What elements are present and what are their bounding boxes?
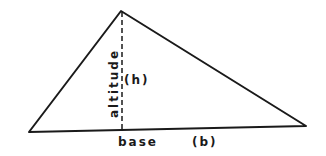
triangle-diagram: altitude (h) base (b) <box>0 0 326 156</box>
base-variable-label: (b) <box>192 135 218 149</box>
base-label: base <box>118 135 158 149</box>
height-label: (h) <box>124 73 150 87</box>
altitude-label: altitude <box>107 49 121 118</box>
triangle <box>29 11 306 132</box>
